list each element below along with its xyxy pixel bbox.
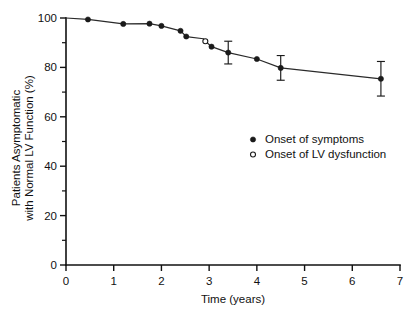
x-tick-label: 7 bbox=[397, 275, 403, 287]
data-point-filled bbox=[184, 34, 189, 39]
legend-label: Onset of symptoms bbox=[265, 133, 364, 145]
y-tick-label: 20 bbox=[44, 210, 57, 222]
y-tick-label: 40 bbox=[44, 160, 57, 172]
data-point-open bbox=[203, 39, 208, 44]
y-tick-label: 0 bbox=[51, 259, 57, 271]
legend-label: Onset of LV dysfunction bbox=[265, 148, 386, 160]
x-tick-label: 5 bbox=[301, 275, 307, 287]
y-tick-label: 100 bbox=[38, 12, 57, 24]
y-axis-title-line1: Patients Asymptomatic bbox=[10, 90, 22, 207]
x-tick-label: 3 bbox=[206, 275, 212, 287]
x-tick-label: 2 bbox=[158, 275, 164, 287]
chart-figure: 020406080100 01234567 Time (years) Patie… bbox=[0, 0, 417, 324]
data-point-filled bbox=[278, 65, 283, 70]
data-point-filled bbox=[159, 23, 164, 28]
data-point-filled bbox=[147, 21, 152, 26]
legend-marker-open-circle bbox=[251, 152, 256, 157]
x-tick-label: 1 bbox=[111, 275, 117, 287]
survival-chart: 020406080100 01234567 Time (years) Patie… bbox=[0, 0, 417, 324]
data-point-filled bbox=[85, 17, 90, 22]
y-axis-title-line2: with Normal LV Function (%) bbox=[23, 75, 35, 222]
x-axis-title: Time (years) bbox=[201, 293, 265, 305]
data-point-filled bbox=[226, 50, 231, 55]
legend-marker-filled-circle bbox=[250, 137, 255, 142]
data-point-filled bbox=[378, 76, 383, 81]
y-tick-label: 80 bbox=[44, 61, 57, 73]
data-point-filled bbox=[209, 44, 214, 49]
x-tick-label: 6 bbox=[349, 275, 355, 287]
x-tick-label: 0 bbox=[63, 275, 69, 287]
y-tick-label: 60 bbox=[44, 111, 57, 123]
data-point-filled bbox=[178, 28, 183, 33]
data-point-filled bbox=[254, 56, 259, 61]
data-point-filled bbox=[121, 21, 126, 26]
x-tick-label: 4 bbox=[254, 275, 261, 287]
